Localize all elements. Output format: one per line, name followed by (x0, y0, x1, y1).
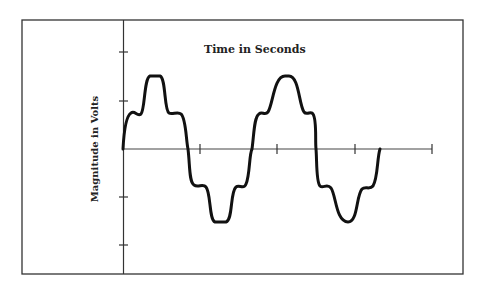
waveform-figure: Time in Seconds Magnitude in Volts (0, 0, 488, 288)
figure-title: Time in Seconds (204, 43, 306, 56)
y-axis-label: Magnitude in Volts (89, 95, 100, 202)
